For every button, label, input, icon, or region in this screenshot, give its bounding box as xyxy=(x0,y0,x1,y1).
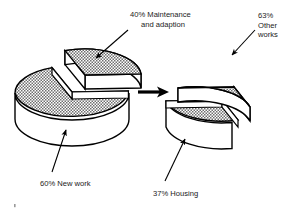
label-new-work: 60% New work xyxy=(40,179,97,188)
label-housing: 37% Housing xyxy=(153,189,205,198)
label-housing-line1: 37% Housing xyxy=(153,189,198,198)
pie-diagram-figure: 40% Maintenance and adaption 63% Other w… xyxy=(0,0,300,213)
diagram-canvas: 40% Maintenance and adaption 63% Other w… xyxy=(0,0,300,213)
label-other-works-line1: 63% xyxy=(258,11,273,20)
page-artifact-mark xyxy=(14,204,16,207)
label-other-works-line3: works xyxy=(257,30,278,39)
label-other-works: 63% Other works xyxy=(257,11,288,39)
label-maintenance: 40% Maintenance and adaption xyxy=(130,10,201,29)
label-maintenance-line1: 40% Maintenance xyxy=(130,10,191,19)
label-new-work-line1: 60% New work xyxy=(40,179,91,188)
label-maintenance-line2: and adaption xyxy=(141,20,185,29)
label-other-works-line2: Other xyxy=(258,21,277,30)
left-pie-cut-face-right xyxy=(72,91,128,99)
